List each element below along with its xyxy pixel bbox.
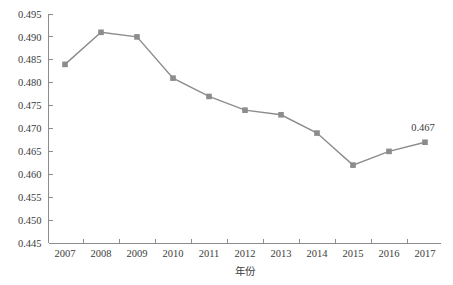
- y-axis-tick-label: 0.475: [18, 100, 42, 111]
- data-point-marker: [134, 34, 140, 40]
- x-axis-tick-label: 2015: [343, 248, 364, 259]
- x-axis-tick-label: 2011: [199, 248, 220, 259]
- data-point-marker: [98, 30, 104, 36]
- x-axis-tick-label: 2013: [271, 248, 292, 259]
- x-axis-tick-mark-group: [83, 239, 407, 243]
- chart-canvas: 0.4950.4900.4850.4800.4750.4700.4650.460…: [0, 0, 453, 285]
- data-point-marker: [422, 139, 428, 145]
- x-axis-title: 年份: [235, 265, 256, 277]
- x-axis-tick-label: 2017: [415, 248, 436, 259]
- y-axis-tick-label: 0.490: [18, 32, 42, 43]
- x-axis-tick-label-group: 2007200820092010201120122013201420152016…: [55, 248, 436, 259]
- y-axis-tick-label: 0.455: [18, 192, 42, 203]
- x-axis-tick-label: 2010: [163, 248, 184, 259]
- y-axis-tick-label: 0.465: [18, 146, 42, 157]
- x-axis-tick-label: 2016: [379, 248, 400, 259]
- data-point-marker: [278, 112, 284, 118]
- data-point-marker-group: [62, 30, 428, 168]
- y-axis-tick-label: 0.470: [18, 123, 42, 134]
- x-axis-tick-label: 2009: [127, 248, 148, 259]
- x-axis-tick-label: 2008: [91, 248, 112, 259]
- y-axis-tick-label: 0.445: [18, 238, 42, 249]
- data-point-label: 0.467: [411, 122, 435, 133]
- y-axis-tick-label-group: 0.4950.4900.4850.4800.4750.4700.4650.460…: [18, 9, 42, 249]
- data-point-marker: [170, 75, 176, 81]
- x-axis-tick-label: 2012: [235, 248, 256, 259]
- x-axis-tick-label: 2007: [55, 248, 76, 259]
- y-axis-tick-label: 0.495: [18, 9, 42, 20]
- y-axis-tick-label: 0.450: [18, 215, 42, 226]
- data-point-marker: [206, 94, 212, 100]
- data-point-marker: [350, 162, 356, 168]
- data-point-marker: [242, 107, 248, 113]
- data-point-marker: [386, 149, 392, 155]
- data-point-marker: [314, 130, 320, 136]
- y-axis-tick-label: 0.460: [18, 169, 42, 180]
- line-chart: 0.4950.4900.4850.4800.4750.4700.4650.460…: [0, 0, 453, 285]
- y-axis-tick-mark-group: [49, 14, 53, 243]
- y-axis-tick-label: 0.485: [18, 54, 42, 65]
- data-label-group: 0.467: [411, 122, 435, 133]
- y-axis-tick-label: 0.480: [18, 77, 42, 88]
- data-series-line: [65, 32, 425, 165]
- data-point-marker: [62, 62, 68, 68]
- x-axis-tick-label: 2014: [307, 248, 329, 259]
